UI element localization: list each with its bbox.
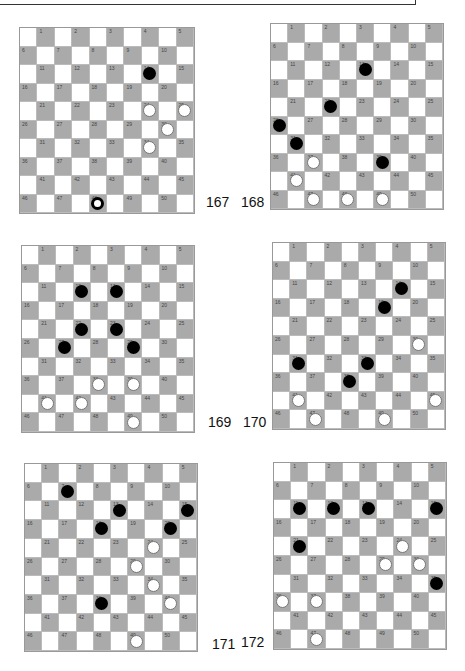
square-27: 27 [56,339,73,358]
square-32: 32 [74,358,91,377]
light-square [180,558,197,577]
square-number: 20 [411,81,417,86]
square-47: 47 [59,632,76,651]
square-10: 10 [159,47,176,66]
light-square [325,336,342,355]
square-13: 13 [357,61,374,80]
light-square [291,519,308,538]
light-square [142,339,159,358]
light-square [357,154,374,173]
light-square [77,595,94,614]
square-number: 10 [165,484,171,489]
square-20: 20 [409,80,426,99]
square-number: 28 [96,559,102,564]
square-number: 22 [74,103,80,108]
light-square [142,302,159,321]
square-number: 28 [92,122,98,127]
square-14: 14 [391,61,408,80]
square-5: 5 [177,246,194,265]
square-29: 29 [125,339,142,358]
light-square [91,283,108,302]
square-21: 21 [291,537,308,556]
light-square [94,501,111,520]
square-6: 6 [22,265,39,284]
square-number: 48 [96,633,102,638]
square-31: 31 [39,358,56,377]
square-number: 23 [361,318,367,323]
square-46: 46 [25,632,42,651]
square-number: 4 [395,244,398,249]
square-number: 44 [144,396,150,401]
square-30: 30 [412,556,429,575]
top-rule [0,4,416,5]
square-number: 30 [165,559,171,564]
diagram-label-168: 168 [241,194,264,210]
square-20: 20 [163,520,180,539]
light-square [59,539,76,558]
white-piece-icon [310,595,323,608]
light-square [326,593,343,612]
square-50: 50 [163,632,180,651]
square-number: 31 [293,576,299,581]
square-number: 13 [361,281,367,286]
square-number: 27 [310,557,316,562]
square-40: 40 [411,373,428,392]
square-34: 34 [393,355,410,374]
square-number: 21 [41,321,47,326]
white-piece-icon [161,123,174,136]
square-number: 43 [110,396,116,401]
light-square [142,376,159,395]
black-piece-icon [343,375,356,388]
light-square [142,265,159,284]
square-number: 11 [292,281,297,286]
square-42: 42 [326,612,343,631]
black-piece-icon [113,504,126,517]
light-square [142,195,159,214]
square-number: 33 [113,577,119,582]
light-square [409,172,426,191]
light-square [394,630,411,649]
light-square [412,575,429,594]
square-7: 7 [308,482,325,501]
square-33: 33 [111,576,128,595]
square-29: 29 [374,117,391,136]
square-number: 21 [39,103,45,108]
black-piece-icon [430,502,443,515]
square-23: 23 [111,539,128,558]
square-21: 21 [42,539,59,558]
square-34: 34 [142,139,159,158]
square-42: 42 [74,395,91,414]
black-piece-icon [110,285,123,298]
square-number: 7 [310,483,313,488]
light-square [37,158,54,177]
square-number: 20 [162,303,168,308]
light-square [77,558,94,577]
square-number: 11 [41,284,46,289]
light-square [25,464,42,483]
square-40: 40 [163,595,180,614]
square-number: 16 [27,521,33,526]
light-square [22,320,39,339]
light-square [429,482,446,501]
light-square [359,410,376,429]
square-3: 3 [108,246,125,265]
white-piece-icon [178,104,191,117]
square-number: 45 [431,613,437,618]
light-square [55,65,72,84]
light-square [325,299,342,318]
square-number: 37 [57,159,63,164]
square-30: 30 [159,121,176,140]
light-square [307,280,324,299]
square-number: 35 [182,577,188,582]
square-12: 12 [72,65,89,84]
square-43: 43 [360,612,377,631]
light-square [111,558,128,577]
square-24: 24 [391,98,408,117]
light-square [305,172,322,191]
black-piece-icon [164,522,177,535]
light-square [25,576,42,595]
light-square [56,358,73,377]
light-square [59,614,76,633]
square-34: 34 [142,358,159,377]
square-number: 2 [74,29,77,34]
